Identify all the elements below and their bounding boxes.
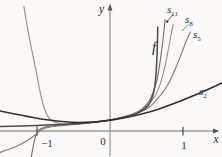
origin-label: 0 xyxy=(100,135,106,147)
x-axis-label: x xyxy=(212,133,219,145)
s2-curve-label: s2 xyxy=(199,85,207,100)
curve-s8 xyxy=(24,7,173,125)
s8-label-subscript: 8 xyxy=(189,20,193,28)
s11-leader-arrow-dot xyxy=(166,20,169,23)
y-axis-arrowhead xyxy=(108,4,113,11)
curve-s2 xyxy=(0,83,222,122)
s11-label-subscript: 11 xyxy=(171,10,178,18)
tick-label-one: 1 xyxy=(181,139,187,151)
y-axis-label: y xyxy=(98,3,105,16)
s8-curve-label: s8 xyxy=(185,13,193,28)
s11-curve-label: s11 xyxy=(167,3,179,18)
function-curves xyxy=(0,7,222,157)
s5-label-subscript: 5 xyxy=(197,35,201,43)
s8-leader-line xyxy=(182,25,188,32)
plot-canvas: y x 0 1 −1 f s11 s8 s5 s2 xyxy=(0,0,222,157)
tick-label-neg-one: −1 xyxy=(41,137,53,149)
s2-label-subscript: 2 xyxy=(203,92,207,100)
s5-curve-label: s5 xyxy=(193,28,201,43)
curve-f xyxy=(0,27,158,127)
taylor-partial-sums-figure: y x 0 1 −1 f s11 s8 s5 s2 xyxy=(0,0,222,157)
